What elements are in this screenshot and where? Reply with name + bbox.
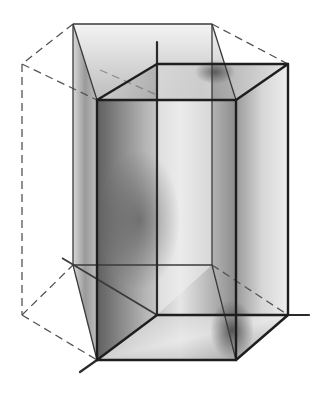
shaded-faces [73, 24, 288, 360]
dashed-bottom-left-back [22, 265, 73, 315]
prism-diagram [0, 0, 321, 398]
axis-bottom-left-stub [80, 360, 97, 372]
shadow-spot-front [100, 150, 180, 290]
dashed-bottom-left-front [22, 315, 97, 360]
dashed-top-left [22, 24, 73, 64]
